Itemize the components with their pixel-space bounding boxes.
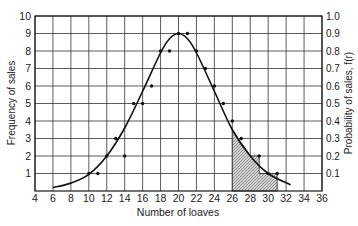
data-point: [213, 84, 216, 87]
y-tick-label: 10: [19, 10, 31, 22]
data-point: [114, 137, 117, 140]
y2-axis-label: Probability of sales, f(r): [343, 52, 354, 154]
y2-tick-label: 0.1: [326, 168, 340, 179]
data-point: [150, 84, 153, 87]
x-tick-label: 20: [173, 192, 185, 204]
x-tick-label: 36: [316, 192, 328, 204]
y2-tick-label: 0.2: [326, 151, 340, 162]
data-point: [258, 154, 261, 157]
data-point: [275, 172, 278, 175]
y2-tick-label: 1.0: [326, 11, 340, 22]
y-axis-label: Frequency of sales: [6, 61, 17, 146]
x-tick-label: 12: [101, 192, 113, 204]
x-tick-label: 30: [262, 192, 274, 204]
x-tick-label: 6: [50, 192, 56, 204]
x-tick-label: 18: [155, 192, 167, 204]
y2-tick-label: 0.7: [326, 63, 340, 74]
y-tick-label: 5: [25, 97, 31, 109]
x-tick-label: 4: [32, 192, 38, 204]
y2-tick-label: 0.3: [326, 133, 340, 144]
y-tick-label: 4: [25, 115, 31, 127]
data-point: [222, 102, 225, 105]
y-tick-label: 8: [25, 45, 31, 57]
data-point: [168, 49, 171, 52]
x-tick-label: 22: [191, 192, 203, 204]
data-point: [123, 154, 126, 157]
y-tick-labels: 12345678910: [19, 10, 31, 180]
data-point: [186, 32, 189, 35]
y2-tick-label: 0.4: [326, 116, 340, 127]
y-tick-label: 9: [25, 27, 31, 39]
chart: 4681012141618202224262830323436 12345678…: [0, 0, 358, 226]
data-point: [96, 172, 99, 175]
x-tick-labels: 4681012141618202224262830323436: [32, 192, 328, 204]
x-tick-label: 8: [68, 192, 74, 204]
data-point: [87, 172, 90, 175]
y-tick-label: 3: [25, 132, 31, 144]
y-tick-label: 1: [25, 167, 31, 179]
y-tick-label: 6: [25, 80, 31, 92]
y-tick-label: 7: [25, 62, 31, 74]
x-tick-label: 10: [83, 192, 95, 204]
y2-tick-labels: 0.10.20.30.40.50.60.70.80.91.0: [326, 11, 340, 180]
data-point: [204, 67, 207, 70]
data-point: [159, 49, 162, 52]
data-point: [177, 32, 180, 35]
y-tick-label: 2: [25, 150, 31, 162]
x-tick-label: 16: [137, 192, 149, 204]
data-point: [266, 172, 269, 175]
y2-tick-label: 0.5: [326, 98, 340, 109]
y2-tick-label: 0.6: [326, 81, 340, 92]
x-tick-label: 28: [244, 192, 256, 204]
data-point: [231, 119, 234, 122]
x-tick-label: 14: [119, 192, 131, 204]
x-axis-label: Number of loaves: [137, 206, 219, 218]
grid: [35, 16, 322, 191]
x-tick-label: 24: [209, 192, 221, 204]
x-tick-label: 32: [280, 192, 292, 204]
y2-tick-label: 0.9: [326, 28, 340, 39]
data-point: [141, 102, 144, 105]
data-point: [195, 49, 198, 52]
data-point: [105, 154, 108, 157]
y2-tick-label: 0.8: [326, 46, 340, 57]
x-tick-label: 34: [298, 192, 310, 204]
x-tick-label: 26: [226, 192, 238, 204]
data-point: [132, 102, 135, 105]
data-point: [240, 137, 243, 140]
